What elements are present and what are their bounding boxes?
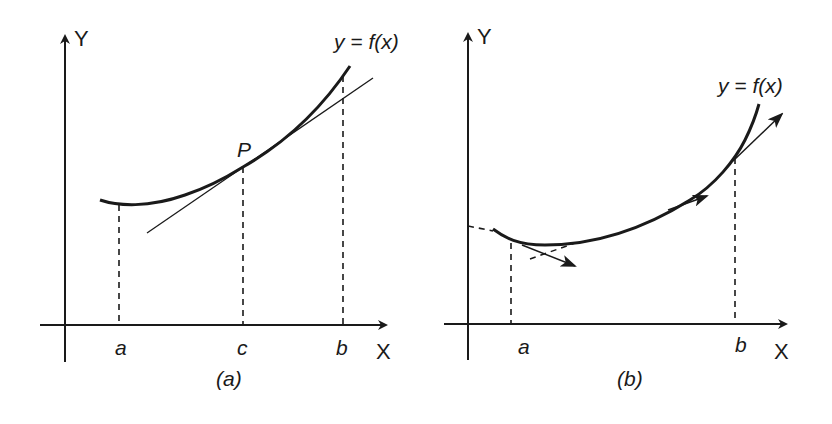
figure-canvas: Y X y = f(x) P a c b (a) Y X y = f(x) a … bbox=[0, 0, 832, 424]
curve-label: y = f(x) bbox=[716, 74, 783, 97]
y-axis-label: Y bbox=[74, 26, 89, 51]
tangent-arrow-middle bbox=[668, 196, 707, 210]
curve-f bbox=[100, 66, 350, 205]
tick-label-b: b bbox=[336, 336, 348, 359]
point-label: P bbox=[237, 138, 251, 161]
tangent-arrow-start bbox=[522, 245, 575, 266]
tick-label-a: a bbox=[115, 336, 127, 359]
panel-a: Y X y = f(x) P a c b (a) bbox=[40, 26, 399, 390]
y-axis-label: Y bbox=[477, 24, 492, 49]
x-axis-label: X bbox=[376, 339, 391, 364]
x-axis-label: X bbox=[774, 339, 789, 364]
panel-b: Y X y = f(x) a b (b) bbox=[444, 24, 789, 390]
curve-label: y = f(x) bbox=[332, 30, 399, 53]
tangent-arrow-end bbox=[733, 114, 782, 161]
curve-f bbox=[493, 104, 759, 245]
tick-label-a: a bbox=[518, 335, 530, 358]
dashed-tangent-extension bbox=[468, 226, 493, 231]
panel-caption-b: (b) bbox=[617, 367, 643, 390]
tick-label-c: c bbox=[237, 336, 248, 359]
tick-label-b: b bbox=[735, 333, 747, 356]
panel-caption-a: (a) bbox=[216, 367, 242, 390]
